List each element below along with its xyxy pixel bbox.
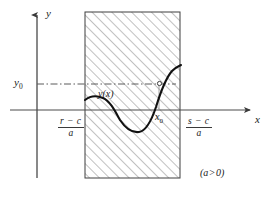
y-threshold-subscript: 0 xyxy=(19,82,23,91)
y-threshold-label: y0 xyxy=(14,77,23,91)
left-bound-fraction: r − c a xyxy=(58,116,84,138)
figure-drawing xyxy=(0,0,271,206)
left-bound-numerator: r − c xyxy=(58,116,84,128)
curve-label: y(x) xyxy=(98,89,114,99)
x-point-subscript: 0 xyxy=(159,117,163,125)
right-bound-fraction: s − c a xyxy=(186,116,212,138)
condition-suffix: 0) xyxy=(216,167,224,178)
intersection-marker xyxy=(157,81,161,85)
x-point-label: x0 xyxy=(155,112,163,125)
right-bound-numerator: s − c xyxy=(186,116,212,128)
figure-container: y x y0 y(x) x0 r − c a s − c a (a>0) xyxy=(0,0,271,206)
y-axis-label: y xyxy=(46,8,51,19)
greater-than-icon: > xyxy=(208,167,216,178)
right-bound-denominator: a xyxy=(186,128,212,139)
sign-condition-note: (a>0) xyxy=(200,168,224,178)
left-bound-denominator: a xyxy=(58,128,84,139)
x-axis-label: x xyxy=(255,114,260,125)
